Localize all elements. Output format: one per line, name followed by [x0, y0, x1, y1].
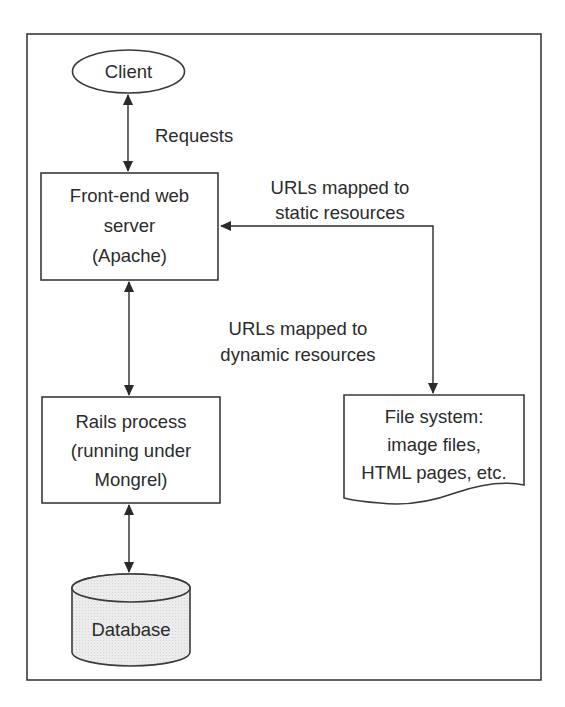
web-server-label-line1: Front-end web	[70, 185, 189, 206]
database-label: Database	[91, 619, 170, 640]
file-system-label-line1: File system:	[385, 406, 484, 427]
file-system-label-line2: image files,	[387, 434, 481, 455]
dynamic-resources-label-line2: dynamic resources	[220, 344, 375, 365]
web-server-label-line3: (Apache)	[92, 245, 167, 266]
diagram-canvas: Client Requests Front-end web server (Ap…	[0, 0, 565, 707]
rails-label-line2: (running under	[71, 440, 191, 461]
web-server-label-line2: server	[104, 215, 155, 236]
node-client: Client	[73, 50, 185, 93]
static-resources-label-line2: static resources	[275, 202, 405, 223]
dynamic-resources-label-line1: URLs mapped to	[229, 318, 368, 339]
bidirectional-arrow-icon	[221, 226, 433, 393]
database-cylinder-top	[72, 574, 190, 602]
requests-label: Requests	[155, 125, 233, 146]
rails-label-line3: Mongrel)	[95, 469, 168, 490]
file-system-label-line3: HTML pages, etc.	[361, 462, 506, 483]
static-resources-label-line1: URLs mapped to	[271, 177, 410, 198]
edge-client-web: Requests	[128, 95, 233, 171]
node-database: Database	[72, 574, 190, 666]
architecture-diagram: Client Requests Front-end web server (Ap…	[0, 0, 565, 707]
edge-web-rails: URLs mapped to dynamic resources	[129, 282, 376, 395]
rails-label-line1: Rails process	[75, 411, 186, 432]
client-label: Client	[105, 61, 152, 82]
node-rails-process: Rails process (running under Mongrel)	[42, 397, 220, 503]
node-web-server: Front-end web server (Apache)	[41, 173, 218, 280]
node-file-system: File system: image files, HTML pages, et…	[344, 395, 524, 504]
